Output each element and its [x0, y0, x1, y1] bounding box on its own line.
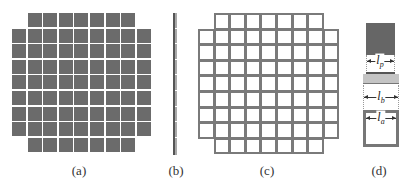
- patch-square: [12, 107, 26, 121]
- patch-square: [74, 60, 88, 74]
- patch-square: [137, 60, 151, 74]
- patch-square: [59, 60, 73, 74]
- patch-square: [74, 91, 88, 105]
- patch-square: [12, 60, 26, 74]
- cell-outline: [260, 60, 277, 77]
- cell-outline: [229, 13, 246, 30]
- patch-square: [366, 23, 395, 55]
- patch-square: [106, 60, 120, 74]
- side-view-gap-tick: [175, 74, 177, 75]
- patch-square: [43, 75, 57, 89]
- cell-outline: [276, 75, 293, 92]
- patch-square: [121, 60, 135, 74]
- patch-square: [137, 75, 151, 89]
- cell-outline: [198, 122, 215, 139]
- patch-square: [121, 122, 135, 136]
- cell-outline: [276, 138, 293, 155]
- cell-outline: [245, 60, 262, 77]
- patch-square: [121, 13, 135, 27]
- patch-square: [90, 91, 104, 105]
- cell-outline: [198, 107, 215, 124]
- cell-outline: [292, 60, 309, 77]
- cell-outline: [276, 122, 293, 139]
- panel-label-c: (c): [260, 163, 274, 179]
- patch-square: [137, 29, 151, 43]
- cell-outline: [229, 44, 246, 61]
- patch-square: [28, 13, 42, 27]
- patch-square: [12, 75, 26, 89]
- patch-square: [106, 138, 120, 152]
- patch-square: [121, 138, 135, 152]
- cell-outline: [245, 91, 262, 108]
- figure-canvas: lp lb la (a) (b) (c) (d): [0, 0, 409, 186]
- patch-square: [74, 44, 88, 58]
- side-view-gap-tick: [175, 28, 177, 29]
- cell-outline: [292, 13, 309, 30]
- cell-outline: [323, 91, 340, 108]
- patch-square: [59, 13, 73, 27]
- side-view-gap-tick: [175, 59, 177, 60]
- cell-outline: [214, 44, 231, 61]
- patch-square: [43, 91, 57, 105]
- patch-square: [121, 44, 135, 58]
- patch-square: [90, 107, 104, 121]
- patch-square: [106, 91, 120, 105]
- cell-outline: [292, 122, 309, 139]
- cell-outline: [229, 60, 246, 77]
- patch-square: [28, 29, 42, 43]
- patch-square: [28, 138, 42, 152]
- patch-square: [28, 122, 42, 136]
- patch-square: [12, 29, 26, 43]
- patch-square: [59, 138, 73, 152]
- patch-square: [43, 29, 57, 43]
- patch-square: [43, 107, 57, 121]
- cell-outline: [260, 91, 277, 108]
- patch-square: [137, 91, 151, 105]
- cell-outline: [229, 29, 246, 46]
- cell-outline: [229, 138, 246, 155]
- cell-outline: [276, 60, 293, 77]
- patch-square: [90, 60, 104, 74]
- cell-outline: [214, 122, 231, 139]
- patch-square: [90, 75, 104, 89]
- lp-guide-right: [394, 55, 395, 71]
- patch-square: [43, 122, 57, 136]
- cell-outline: [307, 13, 324, 30]
- patch-square: [137, 107, 151, 121]
- patch-square: [12, 44, 26, 58]
- patch-square: [106, 44, 120, 58]
- cell-outline: [307, 122, 324, 139]
- patch-square: [121, 107, 135, 121]
- lp-guide-left: [366, 55, 367, 71]
- cell-outline: [229, 107, 246, 124]
- patch-square: [121, 29, 135, 43]
- cell-outline: [245, 122, 262, 139]
- cell-outline: [245, 138, 262, 155]
- cell-outline: [292, 29, 309, 46]
- side-view-gap-tick: [175, 137, 177, 138]
- patch-square: [59, 75, 73, 89]
- cell-outline: [245, 44, 262, 61]
- patch-square: [43, 60, 57, 74]
- patch-square: [106, 29, 120, 43]
- patch-square: [106, 13, 120, 27]
- patch-square: [28, 107, 42, 121]
- cell-outline: [260, 122, 277, 139]
- cell-outline: [292, 107, 309, 124]
- cell-outline: [260, 44, 277, 61]
- patch-square: [106, 122, 120, 136]
- cell-outline: [214, 60, 231, 77]
- patch-square: [121, 91, 135, 105]
- panel-label-b: (b): [168, 163, 183, 179]
- cell-outline: [198, 44, 215, 61]
- patch-square: [106, 75, 120, 89]
- cell-outline: [214, 138, 231, 155]
- cell-outline: [307, 60, 324, 77]
- substrate-band: [363, 74, 399, 84]
- patch-square: [74, 13, 88, 27]
- panel-label-a: (a): [72, 163, 86, 179]
- cell-outline: [292, 138, 309, 155]
- patch-square: [59, 29, 73, 43]
- patch-square: [12, 91, 26, 105]
- cell-outline: [229, 122, 246, 139]
